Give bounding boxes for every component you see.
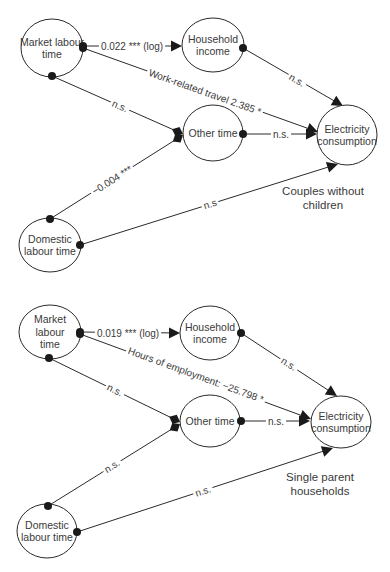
node-income: Householdincome	[180, 306, 240, 360]
edge-label: n.s	[200, 196, 220, 213]
node-domestic: Domesticlabour time	[17, 504, 77, 558]
node-label: Other time	[188, 127, 237, 139]
node-label: Electricity	[325, 123, 371, 135]
edge-origin-dot-icon	[237, 417, 245, 425]
node-label: Electricity	[319, 410, 365, 422]
node-label: time	[40, 338, 60, 350]
node-label: labour time	[24, 245, 76, 257]
edge-label: 0.019 *** (log)	[95, 327, 161, 339]
arrowhead-icon	[169, 327, 180, 338]
node-market: Market labourtime	[20, 19, 85, 77]
edge-other-to-elec: n.s.	[243, 128, 317, 140]
edge-origin-dot-icon	[48, 72, 56, 80]
edge-label: n.s.	[266, 415, 286, 427]
node-label: Household	[188, 33, 238, 45]
panel-title-line: Couples without	[282, 185, 365, 197]
panel-title-line: Single parent	[286, 471, 355, 483]
panel-title: Couples withoutchildren	[282, 185, 365, 211]
edge-label-text: 0.022 *** (log)	[101, 41, 163, 52]
edge-origin-dot-icon	[239, 44, 247, 52]
edge-market-to-income: 0.019 *** (log)	[80, 327, 180, 339]
edge-origin-dot-icon	[46, 215, 54, 223]
node-income: Householdincome	[182, 18, 244, 72]
node-label: income	[196, 45, 230, 57]
node-label: Domestic	[28, 233, 72, 245]
panel-title: Single parenthouseholds	[286, 471, 355, 497]
edge-domestic-to-other: n.s.	[48, 420, 183, 506]
node-label: labour time	[21, 531, 73, 543]
node-label: labour	[35, 326, 65, 338]
edge-label: n.s.	[271, 128, 291, 140]
panel-title-line: households	[291, 485, 350, 497]
node-market: Marketlabourtime	[19, 305, 81, 359]
panel-title-line: children	[303, 199, 343, 211]
node-elec: Electricityconsumption	[311, 396, 371, 448]
node-label: Market	[34, 313, 66, 325]
edge-origin-dot-icon	[76, 241, 84, 249]
edge-label: 0.022 *** (log)	[99, 40, 165, 52]
edge-label-text: −0.004 ***	[90, 163, 134, 197]
edge-label: −0.004 ***	[88, 162, 136, 199]
edge-label-text: n.s.	[268, 416, 284, 427]
edge-origin-dot-icon	[79, 44, 87, 52]
edge-market-to-other: n.s.	[52, 76, 185, 139]
arrowhead-icon	[171, 41, 182, 52]
edge-label: n.s.	[100, 456, 123, 477]
edge-origin-dot-icon	[44, 502, 52, 510]
panel-couples: 0.022 *** (log)Work-related travel 2.385…	[19, 18, 377, 272]
node-domestic: Domesticlabour time	[19, 218, 81, 272]
panel-single-parent: 0.019 *** (log)Hours of employment: −25.…	[17, 305, 371, 558]
edge-label-text: 0.019 *** (log)	[97, 328, 159, 339]
node-other: Other time	[180, 395, 240, 447]
edge-label: n.s.	[277, 353, 300, 374]
node-label: Market labour	[20, 36, 85, 48]
edge-origin-dot-icon	[45, 354, 53, 362]
edge-income-to-elec: n.s.	[243, 48, 346, 111]
edge-market-to-income: 0.022 *** (log)	[83, 40, 182, 52]
edge-origin-dot-icon	[76, 330, 84, 338]
edge-label-text: n.s.	[194, 483, 213, 498]
edge-label: n.s.	[103, 380, 126, 400]
node-label: Other time	[185, 415, 234, 427]
node-label: consumption	[317, 135, 377, 147]
edge-other-to-elec: n.s.	[241, 415, 310, 427]
path-diagram-figure: 0.022 *** (log)Work-related travel 2.385…	[0, 0, 390, 572]
node-other: Other time	[183, 105, 243, 161]
diagram-svg: 0.022 *** (log)Work-related travel 2.385…	[0, 0, 390, 572]
node-label: Household	[185, 321, 235, 333]
edge-label: n.s.	[108, 96, 131, 115]
edge-label-text: n.s.	[273, 129, 289, 140]
edge-origin-dot-icon	[237, 329, 245, 337]
node-label: Domestic	[25, 519, 69, 531]
node-elec: Electricityconsumption	[317, 105, 377, 165]
edge-label: n.s.	[285, 70, 308, 90]
edge-origin-dot-icon	[73, 528, 81, 536]
edge-label: n.s.	[192, 482, 215, 500]
node-label: time	[42, 48, 62, 60]
node-label: consumption	[311, 422, 371, 434]
edge-domestic-to-other: −0.004 ***	[50, 131, 186, 219]
node-label: income	[193, 333, 227, 345]
edge-origin-dot-icon	[239, 130, 247, 138]
